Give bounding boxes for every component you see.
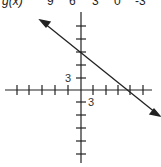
line-gx: [40, 20, 160, 116]
y-tick-label: 3: [65, 72, 71, 84]
coordinate-plane: 3 3: [0, 0, 161, 167]
x-tick-label: 3: [88, 96, 94, 108]
axes: [5, 12, 152, 163]
